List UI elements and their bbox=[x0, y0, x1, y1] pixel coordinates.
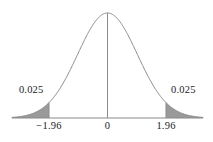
x-axis-tick-label-positive-1-96: 1.96 bbox=[147, 120, 185, 131]
left-tail-area-label: 0.025 bbox=[19, 84, 44, 95]
right-tail-area-label: 0.025 bbox=[171, 84, 196, 95]
shaded-region-left-tail bbox=[12, 103, 49, 118]
x-axis-tick-label-negative-1-96: −1.96 bbox=[28, 120, 70, 131]
vertical-reference-lines bbox=[49, 13, 166, 118]
x-axis-tick-label-zero: 0 bbox=[97, 120, 119, 131]
shaded-region-right-tail bbox=[166, 103, 203, 118]
normal-distribution-figure: 0.025 0.025 −1.96 0 1.96 bbox=[0, 0, 213, 142]
